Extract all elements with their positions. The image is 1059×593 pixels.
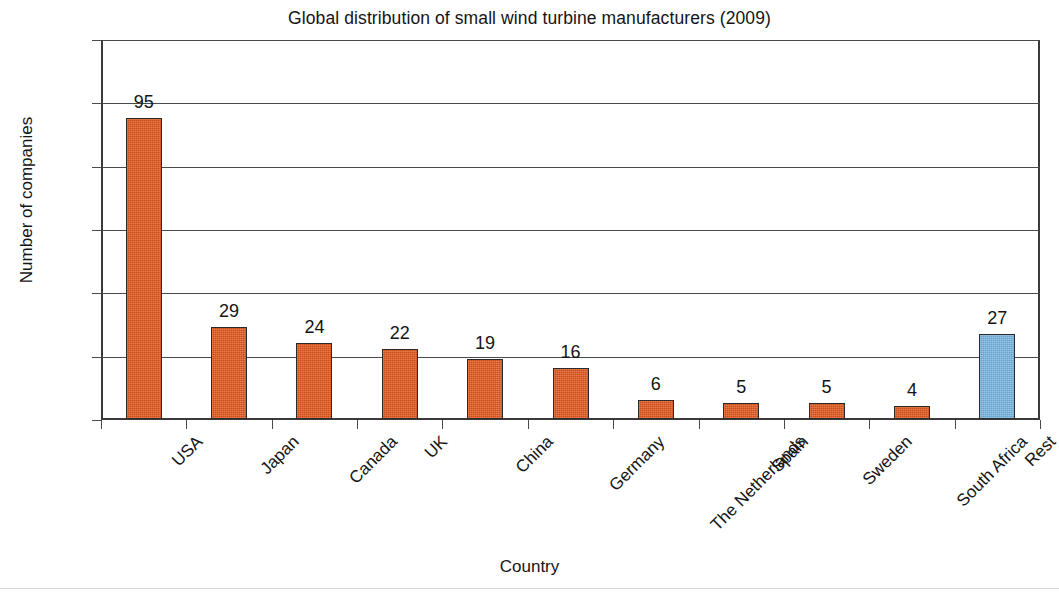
bar-value-label: 22 xyxy=(360,324,440,342)
bar[interactable] xyxy=(809,403,845,419)
y-tick-mark xyxy=(92,357,101,358)
x-tick-mark xyxy=(1040,420,1041,429)
x-category-label: Germany xyxy=(605,432,669,496)
x-category-label: UK xyxy=(421,432,452,463)
bar-value-label: 4 xyxy=(872,381,952,399)
bar[interactable] xyxy=(467,359,503,419)
x-tick-mark xyxy=(699,420,700,429)
x-category-label: China xyxy=(512,432,558,478)
y-axis-title: Number of companies xyxy=(17,85,37,315)
plot-area: 020406080100120 952924221916655427 xyxy=(101,40,1040,420)
gridline xyxy=(101,230,1040,231)
gridline xyxy=(101,103,1040,104)
y-tick-mark xyxy=(92,40,101,41)
y-tick-mark xyxy=(92,293,101,294)
bar-value-label: 6 xyxy=(616,375,696,393)
bar[interactable] xyxy=(211,327,247,419)
x-tick-mark xyxy=(357,420,358,429)
y-tick-mark xyxy=(92,167,101,168)
bar-value-label: 95 xyxy=(104,93,184,111)
x-category-label: Spain xyxy=(768,432,813,477)
x-category-label: South Africa xyxy=(953,432,1032,511)
x-tick-mark xyxy=(955,420,956,429)
figure-bottom-rule xyxy=(0,588,1059,589)
bar[interactable] xyxy=(979,334,1015,420)
bar-value-label: 16 xyxy=(531,343,611,361)
bar-value-label: 24 xyxy=(274,318,354,336)
chart-title: Global distribution of small wind turbin… xyxy=(0,8,1059,29)
x-tick-mark xyxy=(186,420,187,429)
x-tick-mark xyxy=(442,420,443,429)
bar[interactable] xyxy=(126,118,162,419)
bar[interactable] xyxy=(296,343,332,419)
chart-figure: Global distribution of small wind turbin… xyxy=(0,0,1059,593)
bar-value-label: 5 xyxy=(787,378,867,396)
x-tick-mark xyxy=(784,420,785,429)
x-category-label: Rest xyxy=(1022,432,1059,471)
y-tick-mark xyxy=(92,420,101,421)
bar[interactable] xyxy=(894,406,930,419)
bar-value-label: 19 xyxy=(445,334,525,352)
bar[interactable] xyxy=(553,368,589,419)
x-category-label: Sweden xyxy=(859,432,917,490)
x-tick-mark xyxy=(101,420,102,429)
bar-value-label: 27 xyxy=(957,309,1037,327)
x-tick-mark xyxy=(528,420,529,429)
gridline xyxy=(101,293,1040,294)
bar-value-label: 5 xyxy=(701,378,781,396)
x-tick-mark xyxy=(869,420,870,429)
gridline xyxy=(101,40,1040,41)
x-tick-mark xyxy=(272,420,273,429)
bar[interactable] xyxy=(723,403,759,419)
y-tick-mark xyxy=(92,103,101,104)
bar[interactable] xyxy=(382,349,418,419)
x-category-label: Japan xyxy=(257,432,304,479)
x-axis-title: Country xyxy=(0,557,1059,577)
gridline xyxy=(101,167,1040,168)
x-tick-mark xyxy=(613,420,614,429)
bar-value-label: 29 xyxy=(189,302,269,320)
x-category-label: USA xyxy=(168,432,207,471)
y-tick-mark xyxy=(92,230,101,231)
x-category-label: Canada xyxy=(346,432,402,488)
bar[interactable] xyxy=(638,400,674,419)
